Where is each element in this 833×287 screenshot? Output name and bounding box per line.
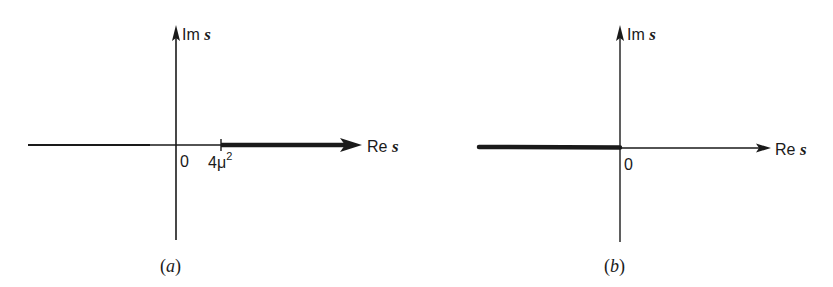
- origin-label-b: 0: [624, 156, 633, 173]
- real-axis-label-a: Re s: [367, 137, 399, 156]
- branch-point-label-a: 4μ2: [208, 150, 232, 171]
- imaginary-axis-label-a: Im s: [182, 25, 211, 44]
- real-axis-label-b: Re s: [775, 140, 807, 159]
- panel-b: Im s Re s 0 (b): [479, 25, 807, 277]
- origin-label-a: 0: [180, 153, 189, 170]
- panel-a: Im s Re s 0 4μ2 (a): [28, 25, 399, 277]
- caption-b: (b): [604, 256, 625, 277]
- caption-a: (a): [160, 256, 181, 277]
- imaginary-axis-label-b: Im s: [627, 25, 656, 44]
- branch-cut-b: [479, 147, 620, 148]
- complex-plane-figure: Im s Re s 0 4μ2 (a) Im s Re s 0 (b): [0, 0, 833, 287]
